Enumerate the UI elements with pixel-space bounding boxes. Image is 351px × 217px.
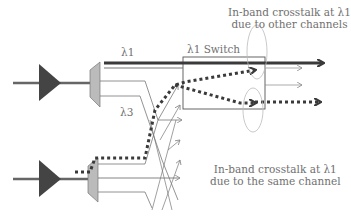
switch-label: λ1 Switch bbox=[187, 43, 240, 55]
annotation-other-channels: In-band crosstalk at λ1 due to other cha… bbox=[228, 6, 351, 30]
crosstalk-dotted-path bbox=[75, 70, 255, 172]
crosstalk-ellipse-bottom bbox=[243, 88, 263, 132]
demux-bottom bbox=[88, 158, 98, 202]
annotation-same-channel: In-band crosstalk at λ1 due to the same … bbox=[210, 163, 341, 187]
crosstalk-ellipse-top bbox=[247, 25, 267, 79]
lambda3-label: λ3 bbox=[120, 106, 133, 118]
demux-top bbox=[90, 62, 100, 107]
amplifier-bottom bbox=[13, 160, 90, 197]
amplifier-top bbox=[13, 64, 90, 101]
lambda1-label: λ1 bbox=[121, 46, 134, 58]
switch-box bbox=[183, 57, 265, 109]
